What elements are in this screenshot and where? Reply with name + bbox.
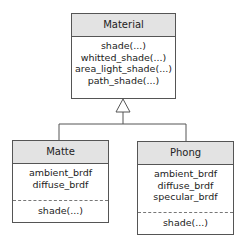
class-name: Matte <box>13 141 108 164</box>
class-material: Material shade(...) whitted_shade(...) a… <box>71 13 176 99</box>
attributes-section: ambient_brdf diffuse_brdf <box>13 164 108 200</box>
attribute: specular_brdf <box>138 191 233 203</box>
method: shade(...) <box>138 217 233 229</box>
connector-line <box>59 124 186 141</box>
methods-section: shade(...) whitted_shade(...) area_light… <box>72 37 175 86</box>
methods-section: shade(...) <box>138 212 233 229</box>
methods-section: shade(...) <box>13 200 108 217</box>
method: whitted_shade(...) <box>72 52 175 64</box>
attributes-section: ambient_brdf diffuse_brdf specular_brdf <box>138 165 233 212</box>
class-name: Material <box>72 14 175 37</box>
method: path_shade(...) <box>72 75 175 87</box>
attribute: diffuse_brdf <box>138 180 233 192</box>
attribute: ambient_brdf <box>138 168 233 180</box>
class-phong: Phong ambient_brdf diffuse_brdf specular… <box>137 141 234 235</box>
method: shade(...) <box>72 40 175 52</box>
method: shade(...) <box>13 205 108 217</box>
generalization-arrow-icon <box>116 99 130 112</box>
attribute: diffuse_brdf <box>13 179 108 191</box>
class-matte: Matte ambient_brdf diffuse_brdf shade(..… <box>12 140 109 223</box>
class-name: Phong <box>138 142 233 165</box>
attribute: ambient_brdf <box>13 167 108 179</box>
method: area_light_shade(...) <box>72 63 175 75</box>
